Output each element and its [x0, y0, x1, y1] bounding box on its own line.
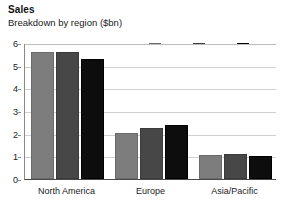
bar: [165, 125, 188, 179]
y-tick-mark: [18, 44, 21, 45]
sales-bar-chart: Sales Breakdown by region ($bn) 19961997…: [0, 0, 284, 212]
bar: [140, 128, 163, 179]
x-tick-label: Europe: [136, 186, 165, 196]
y-tick-mark: [18, 157, 21, 158]
y-axis: 0123456: [0, 44, 21, 180]
y-tick-mark: [18, 67, 21, 68]
x-axis: North AmericaEuropeAsia/Pacific: [24, 182, 276, 198]
bar: [199, 155, 222, 179]
y-tick-mark: [18, 89, 21, 90]
bar-group: [31, 44, 104, 179]
plot-area: [24, 44, 276, 180]
bar: [224, 154, 247, 179]
x-tick-label: North America: [38, 186, 95, 196]
bar: [115, 133, 138, 179]
bars-layer: [25, 44, 276, 179]
chart-header: Sales Breakdown by region ($bn): [8, 3, 278, 29]
y-tick-mark: [18, 135, 21, 136]
bar: [81, 59, 104, 179]
chart-subtitle: Breakdown by region ($bn): [8, 16, 278, 29]
y-tick-mark: [18, 180, 21, 181]
x-tick-label: Asia/Pacific: [211, 186, 258, 196]
bar-group: [199, 44, 272, 179]
bar: [31, 52, 54, 179]
page-title: Sales: [8, 3, 278, 16]
bar-group: [115, 44, 188, 179]
bar: [56, 52, 79, 179]
y-tick-mark: [18, 112, 21, 113]
bar: [249, 156, 272, 179]
